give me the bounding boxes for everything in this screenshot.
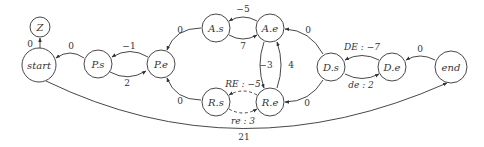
node-label: R.e xyxy=(261,97,279,108)
node-a-e: A.e xyxy=(256,14,284,42)
edge-as-to-ae-arrow xyxy=(229,35,257,39)
node-end: end xyxy=(435,51,467,83)
edge-end-to-de-arrow xyxy=(406,56,435,60)
edge-ps-to-pe-arrow xyxy=(110,71,146,77)
edge-label: 7 xyxy=(240,41,246,51)
edge-ds-to-ae-arrow xyxy=(285,29,323,54)
edge-start-to-end: 21 xyxy=(46,81,447,142)
edge-label: de : 2 xyxy=(348,80,374,90)
edge-label: −1 xyxy=(122,41,135,51)
node-label: P.e xyxy=(153,59,168,70)
edge-label: re : 3 xyxy=(231,116,255,126)
node-label: D.e xyxy=(383,62,401,73)
edge-label: 21 xyxy=(238,132,249,142)
edge-as-to-pe: 0 xyxy=(167,25,201,50)
edge-label: 0 xyxy=(177,25,183,35)
edge-rs-to-re: re : 3 xyxy=(229,109,257,126)
node-label: D.s xyxy=(322,62,339,73)
node-p-e: P.e xyxy=(147,50,175,78)
edge-rs-to-re-arrow xyxy=(229,109,257,113)
node-label: P.s xyxy=(90,59,104,70)
edge-ae-to-as: −5 xyxy=(229,4,257,21)
node-a-s: A.s xyxy=(202,14,230,42)
edge-ae-to-as-arrow xyxy=(229,17,257,21)
edge-ps-to-start: 0 xyxy=(56,41,84,58)
edge-pe-to-ps-arrow xyxy=(112,52,148,58)
node-d-e: D.e xyxy=(378,53,406,81)
node-p-s: P.s xyxy=(84,50,112,78)
edge-label: 4 xyxy=(288,60,294,70)
edge-ds-to-de-arrow xyxy=(345,74,379,79)
node-label: end xyxy=(442,62,461,73)
edge-ds-to-de: de : 2 xyxy=(345,74,379,90)
node-d-s: D.s xyxy=(317,53,345,81)
node-label: R.s xyxy=(207,97,224,108)
edge-label: 0 xyxy=(68,41,74,51)
edge-label: 0 xyxy=(304,98,310,108)
edge-re-to-rs: RE : −5 xyxy=(224,79,261,95)
node-r-s: R.s xyxy=(202,88,230,116)
edge-ds-to-ae: 0 xyxy=(285,25,323,54)
edge-label: −5 xyxy=(236,4,250,14)
edge-label: DE : −7 xyxy=(343,42,380,52)
edge-ds-to-re: 0 xyxy=(285,80,323,108)
node-label: A.s xyxy=(207,23,224,34)
edge-de-to-ds: DE : −7 xyxy=(343,42,380,60)
edge-as-to-pe-arrow xyxy=(167,28,201,50)
edge-re-to-ae: 4 xyxy=(277,42,294,88)
edge-re-to-rs-arrow xyxy=(229,91,257,95)
edge-label: 0 xyxy=(417,44,423,54)
graph-diagram: 0 0 −1 2 0 0 −5 7 −3 4 RE : −5 xyxy=(0,0,484,147)
edge-de-to-ds-arrow xyxy=(345,56,379,61)
edge-rs-to-pe: 0 xyxy=(167,78,201,106)
edge-re-to-ae-arrow xyxy=(277,42,281,88)
edge-ps-to-start-arrow xyxy=(56,53,84,58)
edge-label: −3 xyxy=(259,60,273,70)
node-label: A.e xyxy=(261,23,278,34)
edge-label: 0 xyxy=(27,39,33,49)
edge-ae-to-re: −3 xyxy=(259,42,273,88)
node-z: Z xyxy=(30,17,50,37)
edge-label: RE : −5 xyxy=(224,79,261,89)
edge-end-to-de: 0 xyxy=(406,44,435,60)
node-start: start xyxy=(22,48,56,82)
node-label: start xyxy=(27,60,52,71)
edge-pe-to-ps: −1 xyxy=(112,41,148,57)
node-label: Z xyxy=(36,22,45,33)
edge-as-to-ae: 7 xyxy=(229,35,257,51)
node-r-e: R.e xyxy=(256,88,284,116)
edge-ps-to-pe: 2 xyxy=(110,71,146,88)
edge-label: 0 xyxy=(177,96,183,106)
edge-rs-to-pe-arrow xyxy=(167,78,201,100)
edge-label: 0 xyxy=(305,25,311,35)
edge-start-to-z: 0 xyxy=(27,38,40,49)
edge-label: 2 xyxy=(124,78,130,88)
